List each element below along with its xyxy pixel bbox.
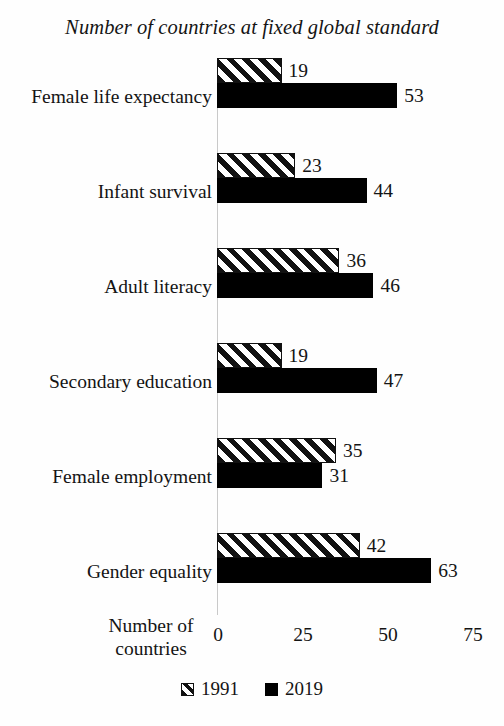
bar-value-2019: 63: [431, 560, 458, 582]
bar-value-1991: 36: [339, 250, 366, 272]
bar-1991[interactable]: [217, 248, 339, 273]
x-tick-label: 0: [213, 624, 223, 646]
bar-track-2019: 46: [217, 273, 373, 298]
bar-track-1991: 19: [217, 58, 282, 83]
bar-value-2019: 31: [322, 465, 349, 487]
legend-label: 2019: [285, 678, 323, 700]
bar-value-2019: 44: [367, 180, 394, 202]
bar-value-1991: 19: [282, 60, 309, 82]
x-tick-label: 75: [463, 624, 483, 646]
x-axis: 0 25 50 75: [0, 624, 504, 664]
bar-track-2019: 47: [217, 368, 377, 393]
chart-figure: Number of countries at fixed global stan…: [0, 0, 504, 726]
x-tick-label: 25: [293, 624, 313, 646]
bar-track-1991: 36: [217, 248, 339, 273]
bar-2019[interactable]: [217, 368, 377, 393]
category-label: Female employment: [52, 466, 212, 488]
bar-track-1991: 42: [217, 533, 360, 558]
bar-2019[interactable]: [217, 273, 373, 298]
bar-2019[interactable]: [217, 83, 397, 108]
bar-group: Gender equality 42 63: [0, 533, 504, 611]
bar-group: Secondary education 19 47: [0, 343, 504, 421]
bar-track-1991: 23: [217, 153, 295, 178]
bar-value-1991: 42: [360, 535, 387, 557]
category-label: Female life expectancy: [31, 86, 212, 108]
bar-track-2019: 63: [217, 558, 431, 583]
bar-group: Infant survival 23 44: [0, 153, 504, 231]
bar-1991[interactable]: [217, 343, 282, 368]
bar-2019[interactable]: [217, 178, 367, 203]
bar-1991[interactable]: [217, 438, 336, 463]
bar-value-2019: 46: [373, 275, 400, 297]
legend-item-2019[interactable]: 2019: [265, 678, 323, 700]
bar-group: Adult literacy 36 46: [0, 248, 504, 326]
bar-value-2019: 53: [397, 85, 424, 107]
category-label: Infant survival: [98, 181, 212, 203]
bar-value-1991: 19: [282, 345, 309, 367]
bar-track-2019: 31: [217, 463, 322, 488]
plot-area: Female life expectancy 19 53 Infant surv…: [0, 58, 504, 618]
bar-value-1991: 23: [295, 155, 322, 177]
y-axis-line: [217, 58, 218, 615]
bar-track-2019: 44: [217, 178, 367, 203]
legend-label: 1991: [201, 678, 239, 700]
bar-value-2019: 47: [377, 370, 404, 392]
category-label: Secondary education: [49, 371, 212, 393]
legend-swatch-solid-icon: [265, 683, 278, 696]
bar-group: Female employment 35 31: [0, 438, 504, 516]
bar-value-1991: 35: [336, 440, 363, 462]
bar-track-1991: 35: [217, 438, 336, 463]
bar-track-2019: 53: [217, 83, 397, 108]
bar-2019[interactable]: [217, 558, 431, 583]
category-label: Adult literacy: [104, 276, 212, 298]
bar-track-1991: 19: [217, 343, 282, 368]
bar-group: Female life expectancy 19 53: [0, 58, 504, 136]
chart-title: Number of countries at fixed global stan…: [0, 16, 504, 39]
bar-1991[interactable]: [217, 153, 295, 178]
legend: 1991 2019: [0, 678, 504, 700]
legend-swatch-hatched-icon: [181, 683, 194, 696]
bar-1991[interactable]: [217, 58, 282, 83]
legend-item-1991[interactable]: 1991: [181, 678, 239, 700]
bar-2019[interactable]: [217, 463, 322, 488]
x-tick-label: 50: [378, 624, 398, 646]
category-label: Gender equality: [87, 561, 212, 583]
bar-1991[interactable]: [217, 533, 360, 558]
